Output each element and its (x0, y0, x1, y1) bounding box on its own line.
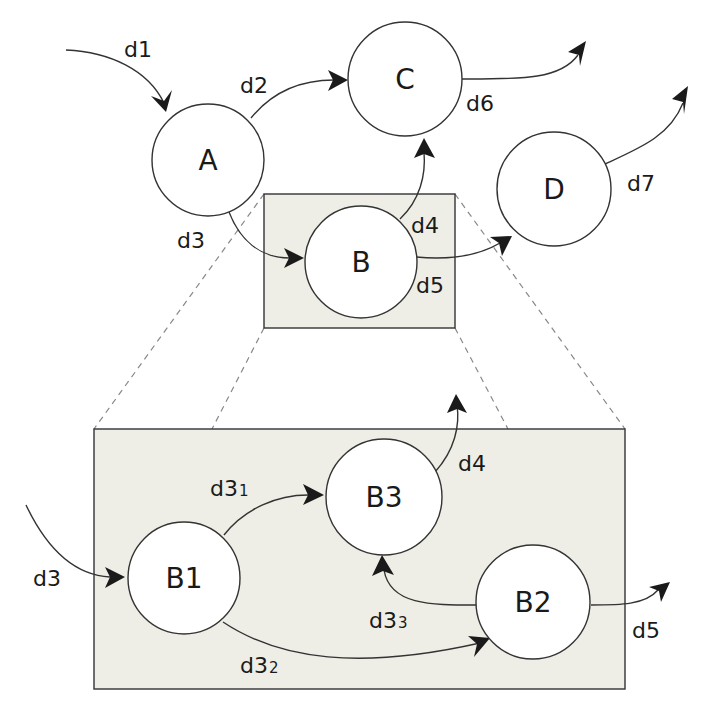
node-b1[interactable]: B1 (128, 522, 240, 634)
node-b1-label: B1 (165, 562, 202, 595)
edge-label-d6: d6 (466, 91, 494, 116)
node-b2-label: B2 (514, 586, 551, 619)
edge-label-d5: d5 (416, 273, 444, 298)
diagram-canvas: A C D B d1 d2 d3 d4 d5 d6 d7 (0, 0, 711, 721)
edge-label-detail-d5: d5 (632, 618, 660, 643)
zoom-guide-inner-right (455, 328, 508, 429)
edge-label-d4: d4 (411, 213, 439, 238)
edge-d6 (462, 55, 578, 79)
edge-label-d2: d2 (240, 73, 268, 98)
arrowhead-icon (151, 90, 172, 112)
node-a[interactable]: A (152, 104, 264, 216)
arrowhead-icon (649, 582, 670, 602)
edge-d7 (605, 103, 683, 164)
node-b3[interactable]: B3 (326, 439, 442, 555)
node-b2[interactable]: B2 (476, 545, 590, 659)
node-d[interactable]: D (497, 132, 611, 246)
node-a-label: A (198, 144, 217, 177)
node-c-label: C (395, 63, 415, 96)
edge-label-detail-d3: d3 (33, 566, 61, 591)
edge-label-d1: d1 (124, 37, 152, 62)
edge-label-d3: d3 (177, 228, 205, 253)
edge-label-d7: d7 (627, 171, 655, 196)
edge-label-detail-d4: d4 (458, 451, 486, 476)
node-b[interactable]: B (305, 206, 417, 318)
node-c[interactable]: C (348, 22, 462, 136)
node-b3-label: B3 (365, 481, 402, 514)
node-b-label: B (351, 246, 370, 279)
zoom-guide-inner-left (212, 328, 264, 429)
node-d-label: D (543, 173, 565, 206)
